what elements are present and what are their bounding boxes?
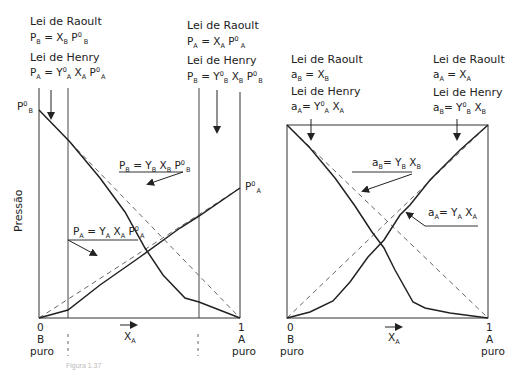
x-tick-0: 0: [287, 321, 294, 333]
raoult-B-title: Lei de Raoult: [30, 15, 102, 28]
henry-B-equation: PB = Y0B XB P0B: [187, 70, 263, 85]
henry-A-title: Lei de Henry: [30, 51, 100, 64]
henry-aB-title: Lei de Henry: [433, 86, 503, 99]
pointer-arrow-icon: [363, 174, 412, 191]
x-tick-0: 0: [37, 321, 44, 333]
henry-aA-title: Lei de Henry: [291, 85, 361, 98]
henry-B-title: Lei de Henry: [187, 54, 257, 67]
activity-A-label: aA= YA XA: [428, 206, 477, 221]
x-label-A: A: [486, 333, 494, 345]
pointer-arrow-icon: [68, 240, 96, 255]
x-label-B: B: [37, 333, 44, 345]
henry-A-equation: PA = Y0A XA P0A: [30, 66, 106, 81]
real-pressure-A-label: PA = YA XA P0A: [73, 225, 145, 240]
x-tick-1: 1: [486, 321, 493, 333]
pure-B-pressure-label: P0B: [17, 100, 33, 115]
x-axis-variable: XA: [388, 331, 400, 346]
x-label-B-puro: puro: [30, 345, 54, 357]
raoult-aA-equation: aA = XA: [433, 68, 472, 83]
raoult-B-equation: PB = XB P0B: [30, 31, 88, 46]
x-label-A-puro: puro: [232, 345, 256, 357]
x-tick-1: 1: [238, 321, 245, 333]
raoult-A-title: Lei de Raoult: [187, 19, 259, 32]
pure-A-pressure-label: P0A: [245, 180, 261, 195]
x-label-A-puro: puro: [481, 345, 505, 357]
x-label-B-puro: puro: [280, 345, 304, 357]
pointer-arrow-icon: [407, 213, 425, 226]
right-chart: Lei de Raoult aB = XB Lei de Henry aA= Y…: [280, 53, 505, 357]
raoult-aA-title: Lei de Raoult: [433, 53, 505, 66]
y-axis-label: Pressão: [12, 189, 25, 232]
x-axis-variable: XA: [124, 330, 136, 345]
raoult-aB-equation: aB = XB: [291, 68, 329, 83]
henry-aA-equation: aA= Y0A XA: [291, 100, 345, 115]
figure-caption: Figura 1.37: [66, 362, 102, 370]
x-label-B: B: [287, 333, 294, 345]
left-chart: Lei de Raoult PB = XB P0B Lei de Henry P…: [12, 15, 263, 357]
activity-B-label: aB= YB XB: [372, 156, 421, 171]
raoult-A-equation: PA = XA P0A: [187, 35, 246, 50]
raoult-ideal-A-line: [39, 188, 240, 318]
x-label-A: A: [238, 333, 246, 345]
diagram-canvas: Lei de Raoult PB = XB P0B Lei de Henry P…: [0, 0, 516, 372]
henry-aB-equation: aB= Y0B XB: [433, 101, 486, 116]
raoult-aB-title: Lei de Raoult: [291, 53, 363, 66]
